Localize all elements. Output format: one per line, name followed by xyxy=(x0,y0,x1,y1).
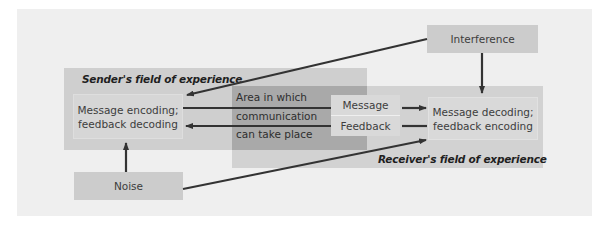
noise-to-receiver-arrow xyxy=(183,140,426,189)
arrows-layer xyxy=(0,0,607,231)
interference-to-sender-arrow xyxy=(187,39,427,95)
